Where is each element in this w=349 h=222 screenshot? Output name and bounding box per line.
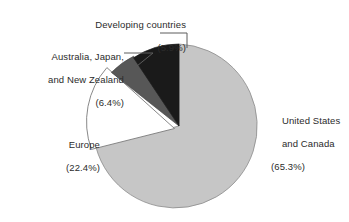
- pie-label-developing-countries-line1: Developing countries: [95, 19, 186, 30]
- pie-label-europe: Europe (22.4%): [16, 128, 100, 196]
- pie-label-australia-japan-new-zealand: Australia, Japan, and New Zealand (6.4%): [2, 40, 124, 131]
- pie-label-europe-percent: (22.4%): [16, 162, 100, 173]
- pie-label-us-canada-percent: (65.3%): [271, 161, 349, 172]
- pie-label-australia-line1: Australia, Japan,: [52, 51, 124, 62]
- pie-label-us-canada-line1: United States: [282, 115, 340, 126]
- pie-label-us-canada-line2: and Canada: [282, 138, 335, 149]
- pie-chart-figure: Developing countries (5.9%) Australia, J…: [0, 0, 349, 222]
- pie-label-australia-line2: and New Zealand: [48, 74, 124, 85]
- pie-label-australia-percent: (6.4%): [2, 97, 124, 108]
- pie-label-europe-line1: Europe: [69, 139, 100, 150]
- pie-label-united-states-and-canada: United States and Canada (65.3%): [271, 104, 349, 195]
